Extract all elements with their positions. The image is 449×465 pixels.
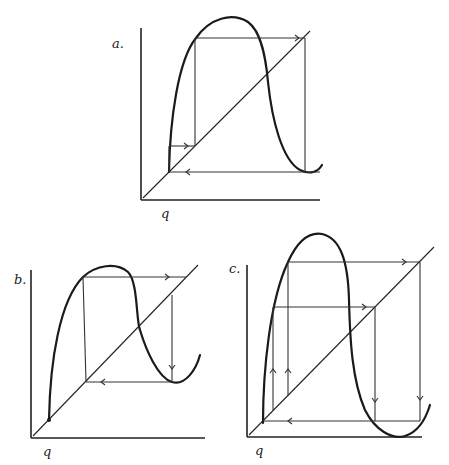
panel-b-identity-line	[33, 265, 198, 436]
panel-a-label: a.	[112, 36, 124, 51]
panel-b-label: b.	[14, 272, 26, 287]
panel-c: c. q	[229, 234, 434, 458]
panel-b-map-curve	[49, 266, 200, 420]
panel-b: b. q	[14, 265, 205, 459]
panel-a-identity-line	[143, 31, 310, 198]
cobweb-figure: a. q b. q	[0, 0, 449, 465]
panel-a-axis-label: q	[161, 206, 169, 221]
panel-c-cobweb	[263, 259, 423, 424]
panel-c-axis-label: q	[255, 443, 263, 458]
panel-b-start-point	[47, 418, 51, 422]
panel-c-label: c.	[229, 261, 240, 276]
panel-c-identity-line	[249, 247, 434, 435]
panel-b-axis-label: q	[43, 444, 51, 459]
panel-a-cobweb	[169, 35, 320, 175]
panel-a: a. q	[112, 17, 322, 221]
